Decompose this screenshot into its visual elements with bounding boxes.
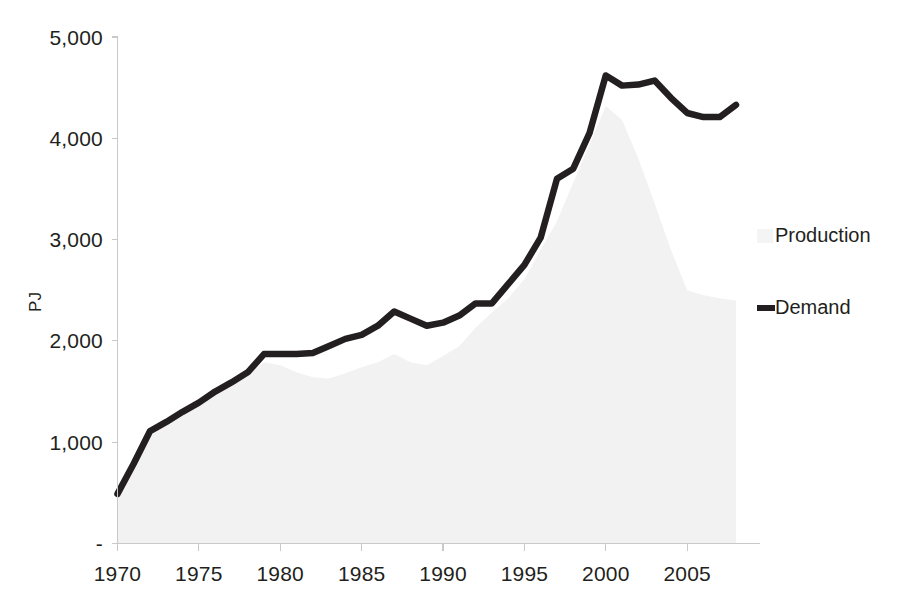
- x-axis-tick-label: 2005: [663, 562, 711, 585]
- y-axis: [112, 37, 118, 544]
- x-axis-tick-label: 2000: [582, 562, 630, 585]
- chart-legend: ProductionDemand: [757, 224, 871, 318]
- energy-production-demand-chart: -1,0002,0003,0004,0005,000 1970197519801…: [0, 0, 909, 612]
- x-axis-tick-label: 1975: [175, 562, 223, 585]
- x-axis-tick-labels: 19701975198019851990199520002005: [94, 562, 711, 585]
- y-axis-tick-labels: -1,0002,0003,0004,0005,000: [49, 26, 103, 556]
- y-axis-tick-label: -: [96, 532, 103, 555]
- y-axis-tick-label: 1,000: [49, 431, 103, 454]
- x-axis: [118, 544, 761, 552]
- legend-label: Demand: [775, 296, 851, 318]
- y-axis-title: PJ: [26, 292, 45, 312]
- chart-canvas: -1,0002,0003,0004,0005,000 1970197519801…: [0, 0, 909, 612]
- x-axis-tick-label: 1980: [256, 562, 304, 585]
- x-axis-tick-label: 1970: [94, 562, 142, 585]
- x-axis-tick-label: 1990: [419, 562, 467, 585]
- y-axis-tick-label: 2,000: [49, 329, 103, 352]
- legend-swatch-area: [757, 229, 773, 243]
- legend-label: Production: [775, 224, 871, 246]
- y-axis-tick-label: 5,000: [49, 26, 103, 49]
- plot-area: [118, 75, 737, 543]
- x-axis-tick-label: 1995: [501, 562, 549, 585]
- y-axis-tick-label: 3,000: [49, 228, 103, 251]
- x-axis-tick-label: 1985: [338, 562, 386, 585]
- y-axis-tick-label: 4,000: [49, 127, 103, 150]
